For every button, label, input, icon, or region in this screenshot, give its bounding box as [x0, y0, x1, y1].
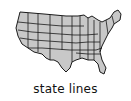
- us-map-icon: [14, 8, 124, 78]
- map-caption: state lines: [0, 82, 131, 96]
- us-outline: [16, 10, 121, 74]
